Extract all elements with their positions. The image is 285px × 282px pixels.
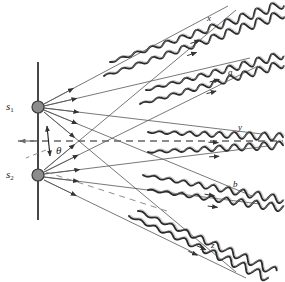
ray-label-a: a [228, 68, 233, 77]
source-label-s1: s1 [6, 101, 14, 114]
ray-label-b: b [233, 180, 238, 189]
interference-diagram: s1 s2 θ x a y b z [0, 0, 285, 282]
ray-label-y: y [238, 123, 242, 132]
ray-label-x: x [207, 14, 211, 23]
ray-label-z: z [211, 241, 215, 250]
angle-theta-label: θ [56, 145, 61, 156]
diagram-canvas [0, 0, 285, 282]
source-label-s2: s2 [6, 169, 14, 182]
